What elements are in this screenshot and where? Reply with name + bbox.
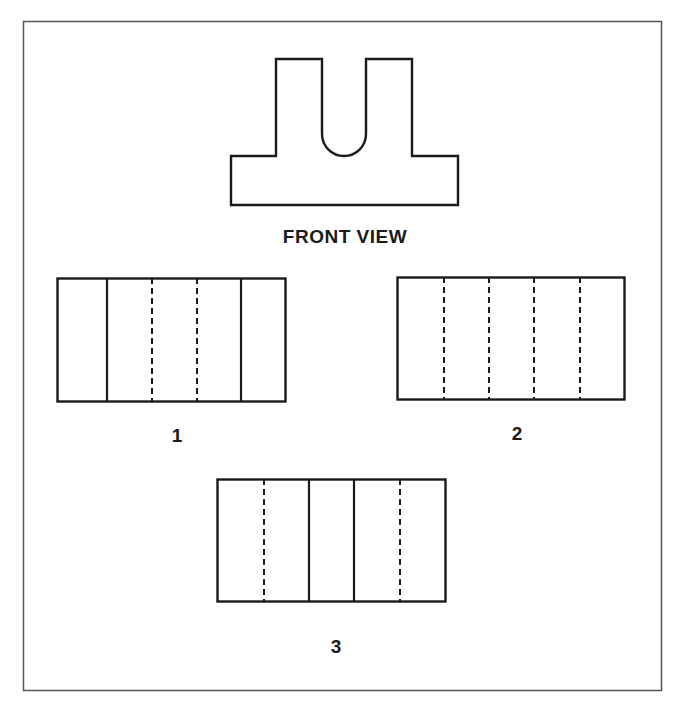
option-3-view[interactable]	[218, 479, 446, 602]
option-3-label: 3	[331, 636, 342, 658]
option-1-label: 1	[172, 425, 183, 447]
option-2-label: 2	[512, 423, 523, 445]
diagram-canvas	[0, 0, 677, 706]
front-view-shape	[231, 59, 458, 205]
option-1-view[interactable]	[58, 278, 286, 402]
option-2-view[interactable]	[398, 277, 625, 400]
outer-frame	[24, 22, 662, 691]
front-view-label: FRONT VIEW	[283, 226, 407, 248]
